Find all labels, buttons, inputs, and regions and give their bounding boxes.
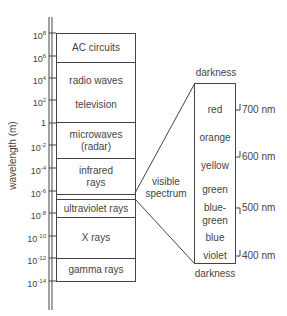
band-label: ultraviolet rays xyxy=(64,203,128,215)
tick-1e8: 108 xyxy=(6,28,46,41)
tick-1e-4: 10-4 xyxy=(6,163,46,176)
tick-1e-14: 10-14 xyxy=(6,276,46,289)
band-label: radio waves xyxy=(69,75,122,87)
band-radio-waves: radio waves television xyxy=(56,62,136,123)
tick-1e-8: 10-8 xyxy=(6,208,46,221)
tick-1e6: 106 xyxy=(6,51,46,64)
color-green: green xyxy=(195,184,235,195)
nm-600: 600 nm xyxy=(242,152,275,162)
color-violet: violet xyxy=(195,250,235,261)
visible-label-line1: visible xyxy=(143,176,189,188)
band-gamma-rays: gamma rays xyxy=(56,258,136,282)
band-x-rays: X rays xyxy=(56,217,136,259)
band-label: gamma rays xyxy=(68,264,123,276)
color-red: red xyxy=(195,104,235,115)
tick-1e2: 102 xyxy=(6,95,46,108)
band-microwaves: microwaves (radar) xyxy=(56,122,136,159)
band-sublabel: television xyxy=(75,99,117,111)
band-ultraviolet: ultraviolet rays xyxy=(56,199,136,218)
tick-1: 1 xyxy=(6,118,46,128)
color-blue: blue xyxy=(195,232,235,243)
visible-label-line2: spectrum xyxy=(143,188,189,200)
darkness-top: darkness xyxy=(193,67,239,78)
color-orange: orange xyxy=(195,132,235,143)
color-yellow: yellow xyxy=(195,160,235,171)
nm-500: 500 nm xyxy=(242,203,275,213)
tick-1e-10: 10-10 xyxy=(6,231,46,244)
band-sublabel: rays xyxy=(87,177,106,189)
band-label: infrared xyxy=(79,165,113,177)
tick-1e4: 104 xyxy=(6,73,46,86)
nm-400: 400 nm xyxy=(242,251,275,261)
band-sublabel: (radar) xyxy=(81,141,111,153)
darkness-bottom: darkness xyxy=(190,268,240,279)
band-ac-circuits: AC circuits xyxy=(56,33,136,63)
nm-700: 700 nm xyxy=(242,105,275,115)
band-label: microwaves xyxy=(70,129,123,141)
tick-1e-2: 10-2 xyxy=(6,140,46,153)
band-infrared: infrared rays xyxy=(56,158,136,195)
color-blue-green-1: blue- xyxy=(195,202,235,213)
band-label: AC circuits xyxy=(72,42,120,54)
color-blue-green-2: green xyxy=(195,215,235,226)
tick-1e-12: 10-12 xyxy=(6,253,46,266)
tick-1e-6: 10-6 xyxy=(6,186,46,199)
visible-spectrum-label: visible spectrum xyxy=(143,176,189,200)
band-label: X rays xyxy=(82,232,110,244)
